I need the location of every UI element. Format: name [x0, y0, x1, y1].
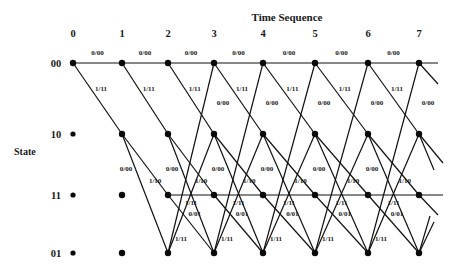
state-node: [165, 131, 171, 137]
edge-label: 1/11: [175, 235, 188, 243]
edge-label: 0/00: [266, 99, 279, 107]
edge-label: 1/11: [375, 235, 388, 243]
edge-stub: [419, 63, 438, 84]
state-node: [416, 131, 422, 137]
edge-label: 0/00: [91, 49, 104, 57]
state-node: [119, 131, 125, 137]
diagram-title: Time Sequence: [252, 11, 323, 23]
edge-label: 1/11: [95, 85, 108, 93]
edge-label: 0/00: [166, 165, 179, 173]
state-node: [260, 192, 266, 198]
edge-label: 0/00: [371, 99, 384, 107]
time-step-label: 1: [119, 28, 124, 39]
edge-label: 1/10: [294, 177, 307, 185]
edge-label: 1/11: [387, 199, 400, 207]
edge-label: 1/11: [221, 235, 234, 243]
time-step-label: 4: [260, 28, 266, 39]
state-node: [70, 250, 75, 255]
state-node: [165, 192, 171, 198]
state-label: 10: [51, 129, 62, 140]
state-node: [165, 60, 171, 66]
edge-label: 0/00: [261, 165, 274, 173]
state-node: [365, 192, 371, 198]
trellis-edge-labels: 0/000/000/000/000/000/000/001/111/110/00…: [91, 49, 434, 243]
edge-label: 0/00: [212, 165, 225, 173]
trellis-edges: [73, 63, 443, 253]
edge-label: 1/11: [322, 235, 335, 243]
edge-label: 0/00: [283, 49, 296, 57]
edge-label: 0/00: [185, 49, 198, 57]
edge-10-01: [122, 134, 168, 253]
edge-00-10: [73, 63, 122, 134]
state-node: [312, 60, 318, 66]
edge-label: 1/11: [286, 85, 299, 93]
time-step-label: 7: [416, 28, 421, 39]
edge-label: 1/11: [283, 199, 296, 207]
state-label: 01: [51, 248, 62, 259]
state-node: [365, 131, 371, 137]
time-step-label: 2: [165, 28, 170, 39]
state-node: [365, 60, 371, 66]
edge-stub: [419, 134, 434, 170]
edge-label: 1/10: [243, 177, 256, 185]
state-node: [211, 192, 217, 198]
state-label: 11: [51, 190, 61, 201]
edge-00-10: [168, 63, 214, 134]
state-node: [211, 131, 217, 137]
edge-label: 1/11: [189, 85, 202, 93]
edge-label: 0/00: [120, 165, 133, 173]
edge-label: 1/10: [195, 177, 208, 185]
state-node: [365, 250, 371, 256]
time-step-label: 3: [211, 28, 216, 39]
edge-label: 0/00: [139, 49, 152, 57]
edge-label: 0/01: [236, 210, 249, 218]
edge-label: 0/01: [339, 210, 352, 218]
edge-label: 0/00: [217, 99, 230, 107]
state-node: [211, 60, 217, 66]
state-node: [312, 131, 318, 137]
edge-00-10: [122, 63, 168, 134]
state-node: [416, 250, 422, 256]
state-node: [165, 250, 171, 256]
edge-label: 0/01: [286, 210, 299, 218]
state-node: [70, 60, 76, 66]
edge-label: 1/11: [270, 235, 283, 243]
state-node: [260, 60, 266, 66]
state-node: [312, 250, 318, 256]
edge-label: 0/01: [188, 210, 201, 218]
edge-label: 0/01: [391, 210, 404, 218]
edge-label: 1/10: [347, 177, 360, 185]
state-node: [260, 250, 266, 256]
state-label: 00: [51, 58, 62, 69]
state-node: [119, 250, 125, 256]
edge-label: 0/00: [318, 99, 331, 107]
edge-label: 1/11: [185, 199, 198, 207]
state-node: [119, 192, 125, 198]
state-node: [70, 192, 75, 197]
state-node: [312, 192, 318, 198]
edge-label: 1/11: [391, 85, 404, 93]
state-axis-label: State: [14, 146, 36, 157]
state-labels: 00101101: [51, 58, 62, 259]
edge-label: 1/11: [335, 199, 348, 207]
state-node: [211, 250, 217, 256]
time-step-labels: 01234567: [70, 28, 421, 39]
edge-label: 1/11: [339, 85, 352, 93]
state-node: [70, 131, 75, 136]
time-step-label: 6: [365, 28, 370, 39]
edge-label: 1/11: [143, 85, 156, 93]
edge-stub: [419, 195, 438, 215]
state-node: [119, 60, 125, 66]
edge-label: 0/00: [335, 49, 348, 57]
state-node: [416, 192, 422, 198]
state-node: [260, 131, 266, 137]
edge-label: 0/00: [232, 49, 245, 57]
time-step-label: 0: [70, 28, 75, 39]
edge-label: 0/00: [422, 99, 435, 107]
time-step-label: 5: [312, 28, 317, 39]
edge-label: 0/00: [387, 49, 400, 57]
edge-label: 1/10: [398, 177, 411, 185]
edge-label: 1/11: [236, 85, 249, 93]
trellis-diagram: Time Sequence 01234567 00101101 State 0/…: [0, 0, 458, 271]
edge-label: 1/10: [149, 177, 162, 185]
